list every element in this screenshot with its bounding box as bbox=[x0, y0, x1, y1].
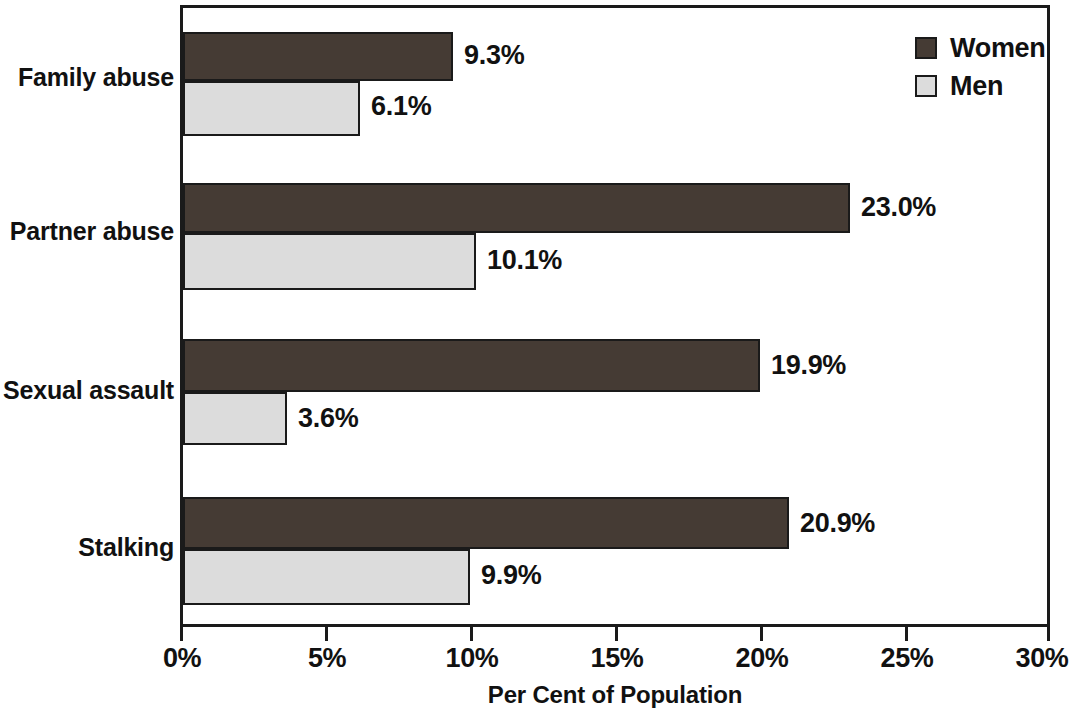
x-axis-title: Per Cent of Population bbox=[180, 681, 1050, 709]
plot-area: Women Men bbox=[180, 5, 1050, 627]
x-axis-tick-0 bbox=[180, 627, 183, 641]
y-axis-label-family-abuse: Family abuse bbox=[2, 63, 174, 92]
y-axis-label-sexual-assault: Sexual assault bbox=[2, 376, 174, 405]
bar-women-stalking bbox=[183, 497, 789, 549]
value-label-women-sexual-assault: 19.9% bbox=[771, 350, 846, 381]
x-axis-tick-5 bbox=[325, 627, 328, 641]
x-axis-tick-label-15: 15% bbox=[591, 643, 644, 674]
x-axis-tick-label-5: 5% bbox=[308, 643, 346, 674]
bar-men-partner-abuse bbox=[183, 233, 476, 290]
x-axis-tick-25 bbox=[905, 627, 908, 641]
x-axis-tick-10 bbox=[470, 627, 473, 641]
legend-item-men: Men bbox=[915, 67, 1046, 105]
bar-men-stalking bbox=[183, 549, 470, 605]
bar-men-sexual-assault bbox=[183, 392, 287, 445]
value-label-men-family-abuse: 6.1% bbox=[371, 91, 431, 122]
value-label-men-partner-abuse: 10.1% bbox=[487, 245, 562, 276]
x-axis-tick-label-25: 25% bbox=[881, 643, 934, 674]
value-label-men-stalking: 9.9% bbox=[481, 560, 541, 591]
bar-men-family-abuse bbox=[183, 81, 360, 136]
y-axis-label-stalking: Stalking bbox=[2, 533, 174, 562]
y-axis-label-partner-abuse: Partner abuse bbox=[2, 217, 174, 246]
bar-women-partner-abuse bbox=[183, 183, 850, 233]
bar-chart: Family abuse Partner abuse Sexual assaul… bbox=[0, 0, 1076, 714]
x-axis: 0% 5% 10% 15% 20% 25% 30% bbox=[180, 627, 1050, 687]
bar-women-family-abuse bbox=[183, 32, 453, 81]
x-axis-tick-label-0: 0% bbox=[163, 643, 201, 674]
legend-label-women: Women bbox=[950, 33, 1046, 64]
value-label-women-family-abuse: 9.3% bbox=[464, 40, 524, 71]
legend-swatch-men-icon bbox=[915, 75, 937, 97]
y-axis-category-labels: Family abuse Partner abuse Sexual assaul… bbox=[0, 0, 174, 714]
legend-label-men: Men bbox=[950, 71, 1003, 102]
value-label-men-sexual-assault: 3.6% bbox=[298, 403, 358, 434]
x-axis-tick-label-20: 20% bbox=[736, 643, 789, 674]
x-axis-tick-label-30: 30% bbox=[1016, 643, 1069, 674]
legend-swatch-women-icon bbox=[915, 37, 937, 59]
x-axis-tick-30 bbox=[1047, 627, 1050, 641]
legend: Women Men bbox=[915, 29, 1046, 105]
value-label-women-stalking: 20.9% bbox=[800, 508, 875, 539]
x-axis-tick-15 bbox=[615, 627, 618, 641]
legend-item-women: Women bbox=[915, 29, 1046, 67]
value-label-women-partner-abuse: 23.0% bbox=[861, 192, 936, 223]
bar-women-sexual-assault bbox=[183, 339, 760, 392]
x-axis-tick-label-10: 10% bbox=[446, 643, 499, 674]
x-axis-tick-20 bbox=[760, 627, 763, 641]
